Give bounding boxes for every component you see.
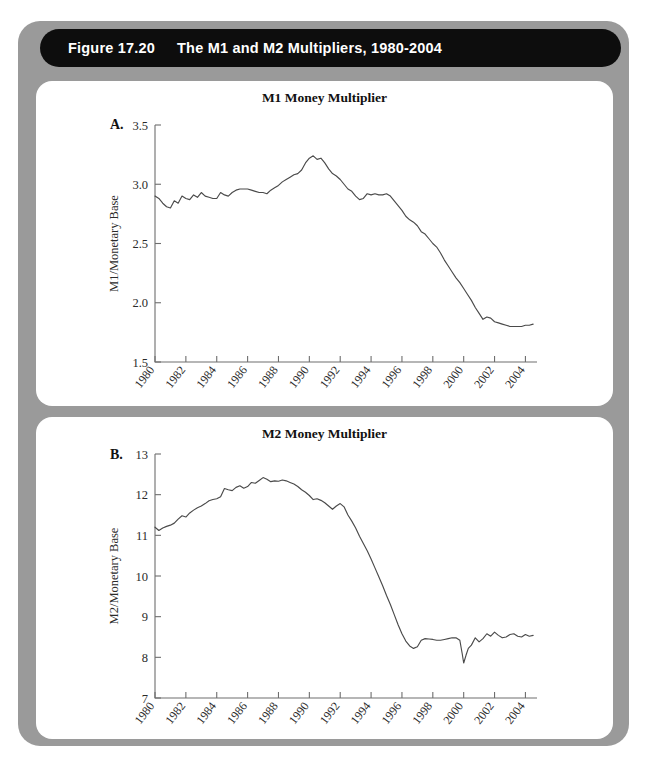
y-tick-label: 2.5 — [132, 237, 148, 251]
x-tick-label: 1994 — [348, 363, 374, 391]
x-tick-label: 1980 — [132, 699, 158, 727]
y-tick-label: 12 — [136, 488, 149, 502]
x-tick-label: 1986 — [224, 699, 250, 727]
x-tick-label: 1990 — [286, 363, 312, 391]
figure-title-bar: Figure 17.20 The M1 and M2 Multipliers, … — [40, 29, 621, 67]
x-tick-label: 1996 — [379, 363, 405, 391]
figure-title: The M1 and M2 Multipliers, 1980-2004 — [177, 40, 442, 56]
x-tick-label: 1982 — [162, 699, 188, 727]
chart-a-svg: 1.52.02.53.03.51980198219841986198819901… — [36, 81, 613, 406]
data-line — [155, 156, 533, 327]
y-tick-label: 13 — [136, 448, 149, 462]
y-axis-title: M1/Monetary Base — [107, 195, 121, 292]
y-axis-title: M2/Monetary Base — [107, 527, 121, 624]
x-tick-label: 2000 — [440, 363, 466, 391]
x-tick-label: 1984 — [193, 363, 219, 391]
y-tick-label: 3.5 — [132, 119, 148, 133]
x-tick-label: 1984 — [193, 699, 219, 727]
panel-b-card: M2 Money Multiplier B. 78910111213198019… — [36, 417, 613, 739]
x-tick-label: 2000 — [440, 699, 466, 727]
x-tick-label: 1988 — [255, 699, 281, 727]
data-line — [155, 478, 533, 663]
x-tick-label: 2002 — [471, 699, 497, 727]
figure-number: Figure 17.20 — [68, 40, 155, 56]
y-tick-label: 2.0 — [132, 296, 148, 310]
x-tick-label: 1986 — [224, 363, 250, 391]
x-tick-label: 2004 — [502, 363, 528, 391]
x-tick-label: 1992 — [317, 363, 343, 391]
x-tick-label: 1996 — [379, 699, 405, 727]
x-tick-label: 1990 — [286, 699, 312, 727]
x-tick-label: 1994 — [348, 699, 374, 727]
y-tick-label: 9 — [142, 610, 148, 624]
x-tick-label: 1998 — [409, 699, 435, 727]
x-tick-label: 2002 — [471, 363, 497, 391]
x-tick-label: 1998 — [409, 363, 435, 391]
y-tick-label: 11 — [136, 529, 148, 543]
x-tick-label: 1982 — [162, 363, 188, 391]
chart-b-svg: 7891011121319801982198419861988199019921… — [36, 417, 613, 739]
x-tick-label: 1988 — [255, 363, 281, 391]
x-tick-label: 2004 — [502, 699, 528, 727]
y-tick-label: 10 — [136, 570, 149, 584]
y-tick-label: 3.0 — [132, 178, 148, 192]
x-tick-label: 1992 — [317, 699, 343, 727]
y-tick-label: 8 — [142, 651, 148, 665]
panel-a-card: M1 Money Multiplier A. 1.52.02.53.03.519… — [36, 81, 613, 406]
